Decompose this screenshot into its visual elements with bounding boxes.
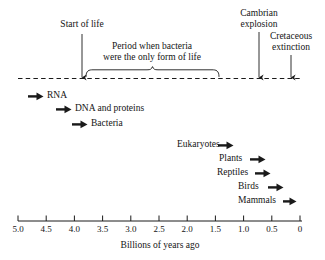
- axis-tick-label-4-5: 4.5: [41, 224, 52, 234]
- annotation-cambrian-explosion-line-2: explosion: [240, 19, 277, 30]
- event-label-dna-and-proteins: DNA and proteins: [75, 103, 144, 113]
- event-label-birds: Birds: [238, 181, 259, 191]
- axis-tick-label-0: 0: [298, 224, 303, 234]
- axis-tick-label-5-0: 5.0: [12, 224, 23, 234]
- annotation-cretaceous-extinction-line-2: extinction: [270, 42, 312, 53]
- axis-tick-label-2-5: 2.5: [153, 224, 164, 234]
- event-label-bacteria: Bacteria: [91, 118, 123, 128]
- bacteria-period-brace: [86, 67, 219, 77]
- annotation-start-of-life: Start of life: [60, 19, 103, 30]
- arrow-birds: [268, 184, 284, 192]
- arrow-mammals: [283, 198, 297, 206]
- annotation-cambrian-explosion: Cambrian explosion: [240, 8, 277, 30]
- arrow-bacteria: [72, 121, 88, 129]
- arrow-rna: [28, 93, 44, 101]
- axis-caption: Billions of years ago: [121, 240, 200, 250]
- axis-tick-label-1-5: 1.5: [210, 224, 221, 234]
- event-label-plants: Plants: [219, 153, 242, 163]
- event-label-mammals: Mammals: [238, 195, 276, 205]
- arrow-plants: [250, 156, 266, 164]
- time-axis: [18, 216, 302, 222]
- axis-tick-label-3-0: 3.0: [125, 224, 136, 234]
- annotation-cambrian-explosion-line-1: Cambrian: [240, 8, 277, 19]
- annotation-bacteria-period-line-2: were the only form of life: [103, 52, 201, 63]
- arrow-reptiles: [255, 170, 271, 178]
- arrow-dna-and-proteins: [56, 106, 72, 114]
- axis-tick-label-1-0: 1.0: [238, 224, 249, 234]
- event-label-reptiles: Reptiles: [217, 167, 248, 177]
- annotation-start-of-life-line-1: Start of life: [60, 19, 103, 30]
- annotation-cretaceous-extinction-line-1: Cretaceous: [270, 31, 312, 42]
- timeline-figure: Start of life Period when bacteria were …: [0, 0, 325, 260]
- event-label-rna: RNA: [47, 90, 67, 100]
- annotation-bacteria-period: Period when bacteria were the only form …: [103, 41, 201, 63]
- annotation-bacteria-period-line-1: Period when bacteria: [103, 41, 201, 52]
- axis-tick-label-2-0: 2.0: [182, 224, 193, 234]
- arrow-eukaryotes: [218, 142, 234, 150]
- axis-tick-label-0-5: 0.5: [266, 224, 277, 234]
- annotation-cretaceous-extinction: Cretaceous extinction: [270, 31, 312, 53]
- event-label-eukaryotes: Eukaryotes: [177, 139, 220, 149]
- axis-tick-label-3-5: 3.5: [97, 224, 108, 234]
- axis-tick-label-4-0: 4.0: [69, 224, 80, 234]
